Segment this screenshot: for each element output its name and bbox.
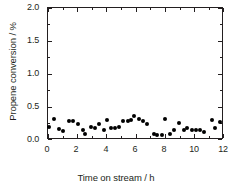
data-point [163, 117, 167, 121]
data-point [121, 119, 125, 123]
data-point [76, 122, 80, 126]
x-axis-title: Time on stream / h [0, 172, 232, 183]
data-point [71, 119, 75, 123]
xtick-label-2: 4 [96, 145, 116, 154]
data-point [185, 126, 189, 130]
data-point [145, 122, 149, 126]
plot-area [47, 7, 223, 139]
data-point [117, 125, 121, 129]
data-point [177, 121, 181, 125]
data-point [190, 128, 194, 132]
xtick-label-1: 2 [66, 145, 86, 154]
data-point [132, 114, 136, 118]
data-point [155, 133, 159, 137]
xtick-label-0: 0 [37, 145, 57, 154]
scatter-series-propene-conversion [48, 8, 222, 138]
y-right-major-tick [218, 139, 222, 140]
data-point [83, 132, 87, 136]
data-point [105, 118, 109, 122]
data-point [160, 133, 164, 137]
x-top-major-tick [223, 8, 224, 12]
y-axis-title: Propene conversion / % [7, 6, 18, 138]
data-point [210, 118, 214, 122]
data-point [202, 130, 206, 134]
data-point [47, 125, 51, 129]
data-point [52, 117, 56, 121]
data-point [213, 126, 217, 130]
data-point [172, 128, 176, 132]
x-major-tick [223, 134, 224, 138]
data-point [61, 129, 65, 133]
xtick-label-3: 6 [125, 145, 145, 154]
chart-figure: 2.0 1.5 1.0 0.5 0.0 0 2 4 6 8 10 12 Time… [0, 0, 232, 190]
y-major-tick [48, 139, 52, 140]
data-point [168, 132, 172, 136]
xtick-label-4: 8 [154, 145, 174, 154]
data-point [102, 128, 106, 132]
data-point [93, 126, 97, 130]
data-point [218, 120, 222, 124]
data-point [129, 118, 133, 122]
data-point [97, 122, 101, 126]
xtick-label-6: 12 [213, 145, 232, 154]
xtick-label-5: 10 [184, 145, 204, 154]
